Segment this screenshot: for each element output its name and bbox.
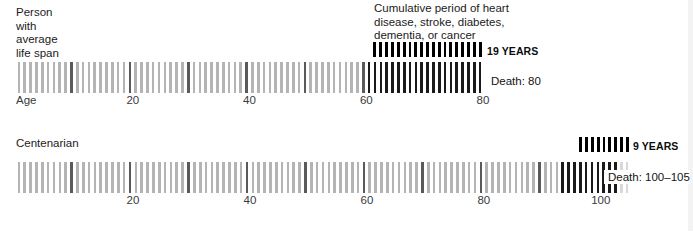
year-tick xyxy=(480,162,483,193)
year-tick xyxy=(461,62,464,93)
year-tick xyxy=(228,62,231,93)
bracket-tick xyxy=(467,42,470,57)
year-tick xyxy=(222,162,225,193)
year-tick xyxy=(509,162,512,193)
year-tick xyxy=(287,162,290,193)
year-tick xyxy=(427,162,430,193)
year-tick xyxy=(135,162,138,193)
year-tick xyxy=(351,162,354,193)
year-tick xyxy=(415,62,418,93)
year-tick xyxy=(385,62,388,93)
year-tick xyxy=(240,162,243,193)
year-tick xyxy=(129,162,132,193)
year-tick xyxy=(94,162,97,193)
bracket-tick xyxy=(608,137,611,152)
bracket-tick xyxy=(444,42,447,57)
year-tick xyxy=(409,62,412,93)
year-tick xyxy=(415,162,418,193)
year-tick xyxy=(76,162,79,193)
year-tick xyxy=(315,62,318,93)
year-tick xyxy=(298,162,301,193)
year-tick xyxy=(345,62,348,93)
year-tick xyxy=(391,62,394,93)
year-tick xyxy=(105,162,108,193)
bracket-tick xyxy=(614,137,617,152)
year-tick xyxy=(286,62,289,93)
bracket-tick xyxy=(409,42,412,57)
year-tick xyxy=(292,162,295,193)
year-tick xyxy=(53,62,56,93)
year-tick xyxy=(246,162,249,193)
year-tick xyxy=(252,162,255,193)
year-tick xyxy=(193,162,196,193)
year-tick xyxy=(573,162,576,193)
year-tick xyxy=(58,62,61,93)
year-tick xyxy=(269,62,272,93)
year-tick xyxy=(257,62,260,93)
year-tick xyxy=(321,62,324,93)
axis-tick-label: 80 xyxy=(477,194,490,206)
year-tick xyxy=(134,62,137,93)
year-tick xyxy=(93,62,96,93)
bracket-tick xyxy=(597,137,600,152)
year-tick xyxy=(356,62,359,93)
panel-title-centenarian: Centenarian xyxy=(16,137,79,151)
year-tick xyxy=(164,62,167,93)
year-tick xyxy=(216,162,219,193)
year-tick xyxy=(579,162,582,193)
year-tick xyxy=(526,162,529,193)
bracket-tick xyxy=(461,42,464,57)
year-tick xyxy=(70,162,73,193)
year-tick xyxy=(23,162,26,193)
year-tick xyxy=(304,162,307,193)
year-tick xyxy=(316,162,319,193)
axis-tick-label: 60 xyxy=(360,194,373,206)
bracket-tick xyxy=(455,42,458,57)
death-label-centenarian: Death: 100–105 xyxy=(604,170,690,184)
year-tick xyxy=(432,62,435,93)
year-tick xyxy=(456,162,459,193)
year-tick xyxy=(170,162,173,193)
disease-period-label-19-years: 19 YEARS xyxy=(487,45,538,57)
year-tick xyxy=(532,162,535,193)
year-tick xyxy=(280,62,283,93)
year-tick xyxy=(468,162,471,193)
year-tick xyxy=(18,62,21,93)
year-tick xyxy=(561,162,564,193)
year-tick xyxy=(591,162,594,193)
bracket-tick xyxy=(626,137,629,152)
year-tick xyxy=(99,162,102,193)
year-tick xyxy=(474,162,477,193)
bracket-tick xyxy=(432,42,435,57)
year-tick xyxy=(210,62,213,93)
year-tick xyxy=(35,62,38,93)
year-tick xyxy=(251,62,254,93)
year-tick xyxy=(164,162,167,193)
year-tick xyxy=(357,162,360,193)
year-tick xyxy=(567,162,570,193)
bracket-tick xyxy=(479,42,482,57)
year-tick xyxy=(169,62,172,93)
year-tick xyxy=(444,162,447,193)
year-tick xyxy=(538,162,541,193)
axis-tick-label: 20 xyxy=(127,194,140,206)
year-tick xyxy=(152,62,155,93)
axis-tick-label: 80 xyxy=(477,94,490,106)
year-tick xyxy=(309,62,312,93)
bracket-tick xyxy=(373,42,376,57)
lifespan-bar-centenarian xyxy=(16,162,630,193)
year-tick xyxy=(222,62,225,93)
year-tick xyxy=(392,162,395,193)
year-tick xyxy=(105,62,108,93)
year-tick xyxy=(339,62,342,93)
bracket-tick xyxy=(379,42,382,57)
year-tick xyxy=(403,62,406,93)
year-tick xyxy=(421,162,424,193)
axis-tick-label: 40 xyxy=(243,94,256,106)
year-tick xyxy=(438,62,441,93)
year-tick xyxy=(544,162,547,193)
year-tick xyxy=(368,62,371,93)
year-tick xyxy=(18,162,21,193)
year-tick xyxy=(362,62,365,93)
year-tick xyxy=(129,62,132,93)
